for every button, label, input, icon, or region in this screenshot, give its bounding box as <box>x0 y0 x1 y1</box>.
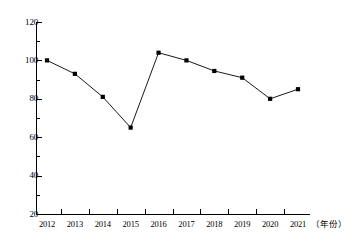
series-line <box>47 53 298 128</box>
data-point-marker <box>156 51 160 55</box>
data-point-marker <box>73 72 77 76</box>
data-point-marker <box>45 58 49 62</box>
data-point-marker <box>212 69 216 73</box>
plot-area <box>0 0 354 245</box>
data-point-marker <box>101 95 105 99</box>
series-markers <box>45 51 300 130</box>
data-point-marker <box>268 97 272 101</box>
data-point-marker <box>296 87 300 91</box>
data-point-marker <box>184 58 188 62</box>
line-chart: 20406080100120 2012201320142015201620172… <box>0 0 354 245</box>
data-point-marker <box>129 126 133 130</box>
data-point-marker <box>240 76 244 80</box>
